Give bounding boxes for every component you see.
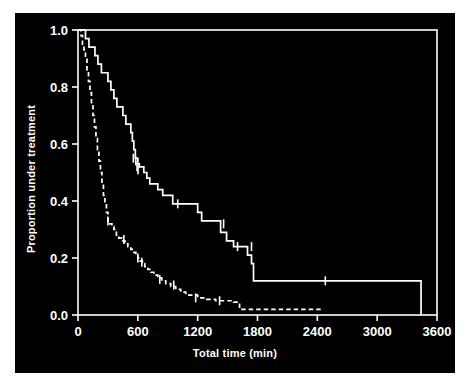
kaplan-meier-chart: 0600120018002400300036000.00.20.40.60.81…: [15, 13, 455, 373]
series-dashed-curve: [78, 30, 321, 309]
plot-area: 0600120018002400300036000.00.20.40.60.81…: [15, 13, 455, 373]
x-tick-label: 600: [127, 324, 149, 339]
y-tick-label: 0.4: [50, 194, 69, 209]
x-tick-label: 1200: [183, 324, 212, 339]
edge-bleed-text: |||||||: [10, 236, 13, 376]
x-tick-label: 3600: [423, 324, 452, 339]
y-tick-label: 0.0: [50, 308, 68, 323]
y-tick-label: 0.8: [50, 80, 68, 95]
figure-container: ||||||| 0600120018002400300036000.00.20.…: [0, 0, 469, 387]
y-tick-label: 1.0: [50, 23, 68, 38]
y-tick-label: 0.2: [50, 251, 68, 266]
x-tick-label: 0: [74, 324, 81, 339]
plot-frame: [78, 30, 437, 315]
x-tick-label: 3000: [363, 324, 392, 339]
x-axis-title: Total time (min): [15, 347, 455, 359]
y-tick-label: 0.6: [50, 137, 68, 152]
page-edge-bleed: |||||||: [0, 236, 13, 376]
chart-panel: 0600120018002400300036000.00.20.40.60.81…: [15, 13, 455, 373]
series-solid-curve: [78, 30, 421, 315]
y-axis-title: Proportion under treatment: [25, 79, 37, 279]
x-tick-label: 1800: [243, 324, 272, 339]
x-tick-label: 2400: [303, 324, 332, 339]
